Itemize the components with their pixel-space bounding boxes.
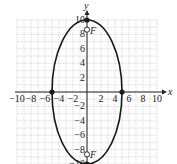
x-tick-label: 2 <box>99 93 104 104</box>
y-tick-label: −8 <box>74 144 85 155</box>
y-tick-label: −4 <box>74 115 85 126</box>
x-axis-label: x <box>167 86 173 97</box>
x-axis-arrow-icon <box>162 90 167 95</box>
y-tick-label: 8 <box>80 28 85 39</box>
x-tick-label: 8 <box>141 93 146 104</box>
x-tick-label: −10 <box>9 93 25 104</box>
y-axis-label: y <box>83 0 89 11</box>
y-tick-label: −6 <box>74 129 85 140</box>
focus-label: F <box>89 149 97 160</box>
focus-point <box>84 27 89 32</box>
focus-point <box>84 152 89 157</box>
y-tick-label: 2 <box>80 72 85 83</box>
x-tick-label: −4 <box>54 93 65 104</box>
vertex-point <box>119 89 124 94</box>
y-tick-label: 4 <box>80 57 85 68</box>
y-tick-label: 10 <box>75 14 85 25</box>
x-tick-label: 10 <box>152 93 162 104</box>
focus-label: F <box>89 25 97 36</box>
vertex-point <box>84 161 89 164</box>
ellipse-graph: xy−10−8−6−4−2246810108642−2−4−6−8−10FF <box>0 0 177 164</box>
labels: xy−10−8−6−4−2246810108642−2−4−6−8−10FF <box>9 0 173 164</box>
vertex-point <box>84 17 89 22</box>
x-tick-label: 6 <box>127 93 132 104</box>
x-tick-label: −8 <box>26 93 37 104</box>
y-tick-label: 6 <box>80 43 85 54</box>
x-tick-label: 4 <box>113 93 118 104</box>
y-tick-label: −2 <box>74 100 85 111</box>
x-tick-label: −6 <box>40 93 51 104</box>
y-tick-label: −10 <box>69 158 85 164</box>
